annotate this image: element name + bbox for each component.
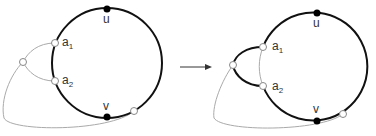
label-a1: a1 bbox=[272, 39, 284, 55]
node-a2 bbox=[260, 83, 267, 90]
label-u: u bbox=[103, 12, 110, 26]
node-v bbox=[104, 114, 111, 121]
node-a1 bbox=[260, 44, 267, 51]
graph-transformation-diagram: u v a1 a2 u v a1 a2 bbox=[0, 0, 376, 136]
node-v bbox=[314, 118, 321, 125]
thick-edge-a2-w bbox=[233, 65, 263, 86]
thin-edge-a1-w bbox=[23, 43, 55, 62]
left-graph: u v a1 a2 bbox=[3, 6, 162, 128]
thick-edge-a1-w bbox=[233, 47, 263, 65]
label-a2: a2 bbox=[272, 79, 284, 95]
transform-arrow bbox=[180, 64, 212, 70]
node-a2 bbox=[52, 78, 59, 85]
label-v: v bbox=[103, 99, 109, 113]
node-a1 bbox=[52, 40, 59, 47]
label-u: u bbox=[313, 16, 320, 30]
thin-edge-a1-a2 bbox=[259, 47, 263, 86]
right-graph: u v a1 a2 bbox=[214, 10, 368, 129]
label-a2: a2 bbox=[62, 73, 74, 89]
node-x bbox=[131, 108, 138, 115]
thin-edge-a2-w bbox=[23, 62, 55, 81]
label-a1: a1 bbox=[62, 35, 74, 51]
node-w bbox=[20, 59, 27, 66]
node-x bbox=[340, 111, 347, 118]
node-w bbox=[230, 62, 237, 69]
label-v: v bbox=[313, 102, 319, 116]
